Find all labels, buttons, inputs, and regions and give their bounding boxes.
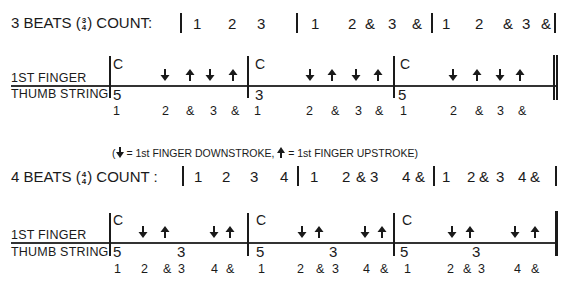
upstroke-icon (327, 69, 337, 81)
beat-label: & (226, 263, 234, 276)
downstroke-icon (205, 69, 215, 81)
thumb-string-number: 3 (177, 244, 185, 259)
count-label: 3 (522, 16, 530, 31)
beat-label: 4 (514, 263, 521, 276)
downstroke-icon (116, 147, 124, 158)
beat-label: 2 (447, 263, 454, 276)
stroke-legend: ( = 1st FINGER DOWNSTROKE, = 1st FINGER … (112, 147, 418, 159)
final-double-bar (553, 55, 555, 100)
time-signature: 44 (82, 171, 86, 185)
beat-label: & (186, 105, 194, 118)
count-bar (554, 13, 556, 33)
beat-label: & (475, 105, 483, 118)
beat-label: 2 (297, 263, 304, 276)
label-thumb-string: THUMB STRING (11, 246, 109, 259)
beat-label: 2 (162, 105, 169, 118)
beat-label: 1 (258, 263, 265, 276)
count-label: 3 (370, 169, 378, 184)
count-label: & (356, 169, 366, 184)
count-bar (182, 166, 184, 186)
beat-label: & (518, 105, 526, 118)
downstroke-icon (510, 226, 520, 238)
upstroke-icon (185, 69, 195, 81)
count-label: & (541, 16, 551, 31)
label-1st-finger: 1ST FINGER (11, 72, 86, 85)
count-label: & (503, 16, 513, 31)
header-3-4: 3 BEATS (34) COUNT: (11, 15, 152, 31)
beat-label: 3 (332, 263, 339, 276)
chord-symbol: C (113, 213, 123, 227)
time-signature: 34 (82, 17, 86, 31)
downstroke-icon (448, 69, 458, 81)
beat-label: 1 (400, 105, 407, 118)
count-label: 4 (518, 169, 526, 184)
count-label: 1 (310, 169, 318, 184)
count-label: & (412, 16, 422, 31)
count-bar (180, 13, 182, 33)
count-label: 3 (388, 16, 396, 31)
count-label: & (479, 169, 489, 184)
thumb-string-number: 5 (400, 244, 408, 259)
beat-label: & (375, 105, 383, 118)
label-1st-finger: 1ST FINGER (11, 229, 86, 242)
beat-label: & (380, 263, 388, 276)
count-label: & (365, 16, 375, 31)
upstroke-icon (377, 226, 387, 238)
thumb-string-number: 5 (398, 87, 406, 102)
upstroke-icon (225, 226, 235, 238)
beat-label: 2 (306, 105, 313, 118)
beat-label: 1 (113, 105, 120, 118)
chord-symbol: C (113, 57, 123, 71)
downstroke-icon (138, 226, 148, 238)
beat-label: 1 (114, 263, 121, 276)
downstroke-icon (160, 69, 170, 81)
beat-label: 2 (141, 263, 148, 276)
header-suffix: ) COUNT : (87, 168, 158, 185)
staff-line (11, 85, 556, 87)
beat-label: & (163, 263, 171, 276)
count-label: 2 (475, 16, 483, 31)
count-label: 2 (228, 16, 236, 31)
downstroke-icon (297, 226, 307, 238)
count-label: 1 (193, 16, 201, 31)
thumb-string-number: 3 (255, 87, 263, 102)
thumb-string-number: 5 (113, 87, 121, 102)
thumb-string-number: 3 (472, 244, 480, 259)
count-label: 4 (280, 169, 288, 184)
downstroke-icon (351, 69, 361, 81)
measure-bar (393, 213, 395, 256)
count-bar (296, 13, 298, 33)
beat-label: 4 (363, 263, 370, 276)
count-label: 2 (467, 169, 475, 184)
final-bar (555, 211, 558, 256)
header-prefix: 3 BEATS ( (11, 14, 81, 31)
thumb-string-number: 5 (113, 244, 121, 259)
upstroke-icon (465, 226, 475, 238)
chord-symbol: C (400, 57, 410, 71)
chord-symbol: C (255, 57, 265, 71)
count-bar (555, 166, 557, 186)
beat-label: 3 (355, 105, 362, 118)
beat-label: 3 (497, 105, 504, 118)
upstroke-icon (160, 226, 170, 238)
beat-label: 3 (178, 263, 185, 276)
count-label: 3 (496, 169, 504, 184)
upstroke-icon (228, 69, 238, 81)
count-label: 3 (257, 16, 265, 31)
beat-label: & (331, 105, 339, 118)
thumb-string-number: 3 (329, 244, 337, 259)
upstroke-icon (277, 147, 285, 158)
measure-bar (247, 213, 249, 256)
count-bar (433, 166, 435, 186)
final-double-bar (556, 55, 558, 100)
beat-label: 1 (254, 105, 261, 118)
beat-label: & (463, 263, 471, 276)
count-label: 1 (194, 169, 202, 184)
count-bar (297, 166, 299, 186)
beat-label: & (531, 263, 539, 276)
downstroke-icon (360, 226, 370, 238)
measure-bar (393, 56, 395, 98)
beat-label: 4 (211, 263, 218, 276)
count-label: & (530, 169, 540, 184)
downstroke-icon (447, 226, 457, 238)
